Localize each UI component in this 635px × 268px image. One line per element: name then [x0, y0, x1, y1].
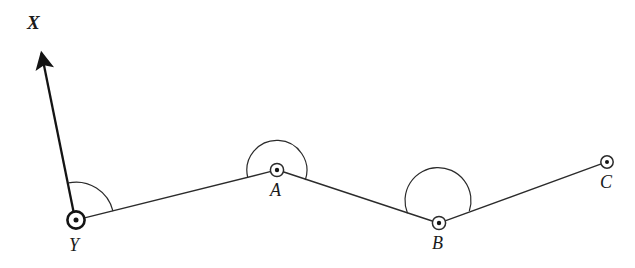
station-markers — [67, 156, 613, 230]
reference-ray-yx — [42, 53, 74, 212]
traverse-legs — [85, 164, 601, 221]
angle-arc-y — [68, 182, 113, 211]
station-marker-y — [67, 211, 84, 228]
label-x: X — [27, 13, 40, 32]
label-b: B — [432, 234, 443, 252]
station-marker-a — [270, 163, 283, 176]
station-marker-b — [432, 216, 445, 229]
station-marker-c — [601, 156, 613, 168]
label-y: Y — [69, 236, 79, 254]
label-a: A — [270, 181, 281, 199]
angle-arcs — [68, 140, 471, 213]
traverse-figure: X Y A B C — [0, 0, 635, 268]
reference-ray-line — [42, 53, 74, 212]
label-c: C — [600, 173, 612, 191]
traverse-leg-bc — [446, 164, 601, 220]
angle-arc-b — [405, 168, 471, 214]
traverse-diagram-canvas — [0, 0, 635, 268]
